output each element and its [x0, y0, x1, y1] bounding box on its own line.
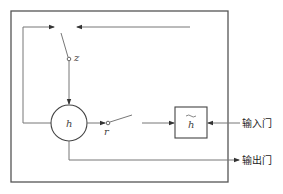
input-gate-label: 输入门 [242, 117, 272, 129]
candidate-state-label: h [188, 119, 194, 130]
reset-gate-label: r [104, 126, 110, 137]
reset-gate-switch-arm [110, 115, 132, 122]
output-gate-label: 输出门 [242, 154, 272, 166]
outer-frame [11, 11, 228, 182]
update-gate-label: z [73, 52, 80, 63]
feedback-line [23, 27, 54, 123]
gru-diagram: z h r h 输入门 输出门 [0, 0, 283, 194]
reset-gate-switch-pivot [106, 121, 110, 125]
update-gate-switch-arm [61, 33, 68, 57]
hidden-state-label: h [66, 118, 72, 129]
update-gate-switch-pivot [67, 57, 71, 61]
output-gate-line [69, 141, 239, 160]
